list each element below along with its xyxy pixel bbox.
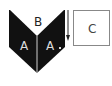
folding-diagram: B A A C (0, 0, 112, 86)
label-a-right: A (46, 39, 55, 53)
label-a-left: A (20, 39, 29, 53)
down-arrow-icon (66, 35, 70, 41)
label-b: B (34, 15, 42, 29)
label-c: C (88, 22, 96, 36)
dot-marker (59, 47, 61, 49)
